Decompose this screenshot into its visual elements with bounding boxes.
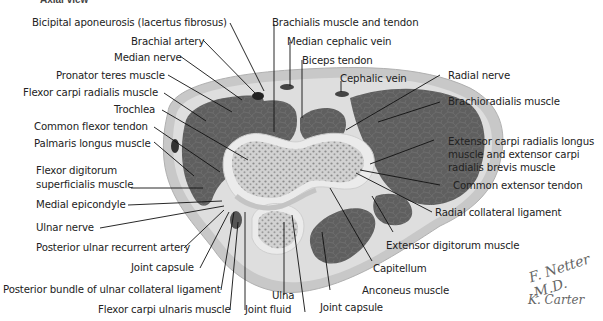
label-cephalic-vein: Cephalic vein [340, 73, 407, 85]
brachial-artery-vessel [252, 92, 264, 100]
label-joint-capsule-left: Joint capsule [131, 262, 194, 274]
label-median-nerve: Median nerve [114, 52, 182, 64]
label-bicipital-aponeurosis: Bicipital aponeurosis (lacertus fibrosus… [32, 17, 227, 29]
label-posterior-bundle-ucl: Posterior bundle of ulnar collateral lig… [3, 284, 221, 296]
label-ecrl-line2: muscle and extensor carpi [448, 149, 579, 161]
label-radial-nerve: Radial nerve [448, 70, 510, 82]
label-brachialis: Brachialis muscle and tendon [272, 17, 418, 29]
label-palmaris-longus: Palmaris longus muscle [34, 138, 151, 150]
cephalic-vein-vessel [335, 91, 349, 97]
signature-carter: K. Carter [528, 293, 584, 307]
label-brachioradialis: Brachioradialis muscle [448, 96, 560, 108]
label-joint-fluid: Joint fluid [245, 304, 291, 316]
median-cephalic-vein-vessel [280, 84, 294, 90]
label-ecrl-line3: radialis brevis muscle [448, 162, 555, 174]
label-common-flexor-tendon: Common flexor tendon [34, 121, 148, 133]
label-ulna: Ulna [272, 290, 294, 302]
label-extensor-digitorum: Extensor digitorum muscle [386, 240, 519, 252]
label-flexor-carpi-radialis: Flexor carpi radialis muscle [23, 87, 158, 99]
label-median-cephalic-vein: Median cephalic vein [287, 36, 391, 48]
label-fds-line1: Flexor digitorum [36, 165, 117, 177]
label-trochlea: Trochlea [114, 104, 155, 116]
label-brachial-artery: Brachial artery [131, 36, 204, 48]
label-common-extensor-tendon: Common extensor tendon [453, 180, 583, 192]
label-medial-epicondyle: Medial epicondyle [36, 199, 126, 211]
label-joint-capsule-bottom: Joint capsule [320, 302, 383, 314]
label-anconeus: Anconeus muscle [362, 285, 449, 297]
label-biceps-tendon: Biceps tendon [302, 55, 373, 67]
label-ulnar-nerve: Ulnar nerve [36, 222, 94, 234]
label-radial-collateral-ligament: Radial collateral ligament [435, 207, 561, 219]
label-posterior-ulnar-recurrent-artery: Posterior ulnar recurrent artery [36, 242, 190, 254]
label-fds-line2: superficialis muscle [36, 179, 133, 191]
label-flexor-carpi-ulnaris: Flexor carpi ulnaris muscle [98, 304, 231, 316]
label-ecrl-line1: Extensor carpi radialis longus [448, 136, 594, 148]
label-pronator-teres: Pronator teres muscle [56, 70, 165, 82]
label-capitellum: Capitellum [373, 263, 426, 275]
